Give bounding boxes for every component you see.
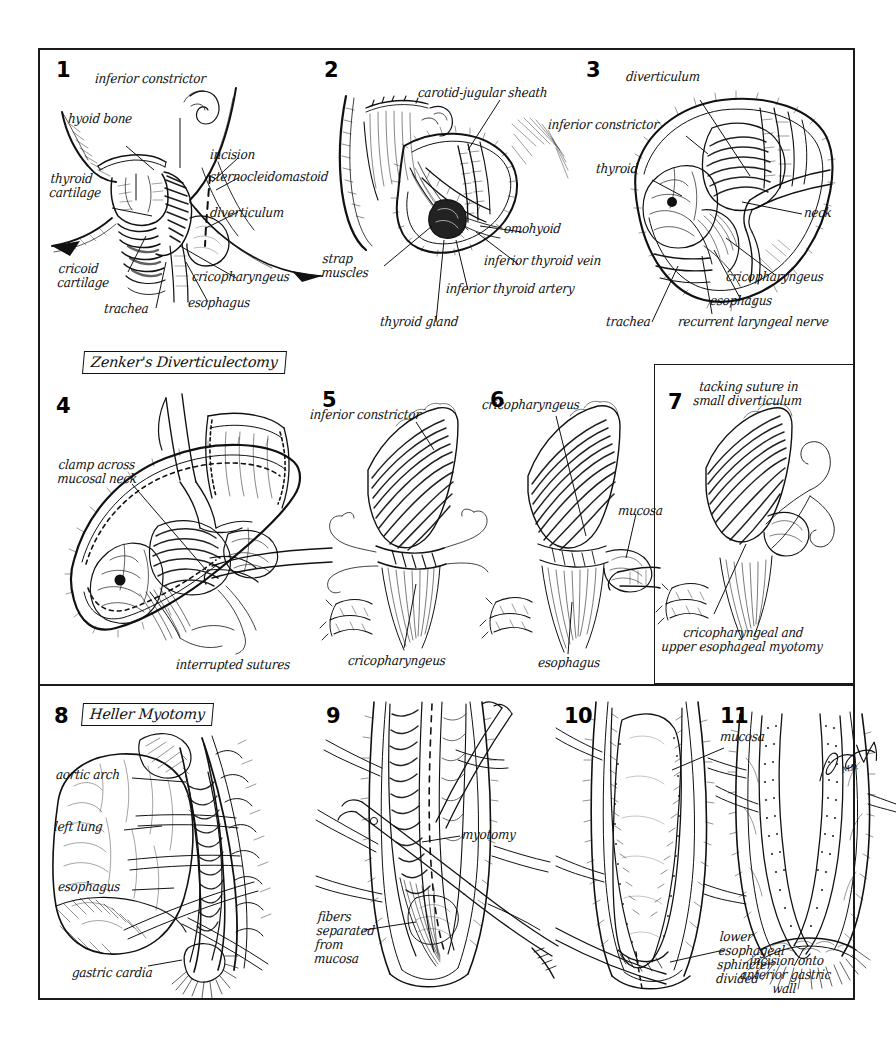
panel-1-label-cricoid-cartilage: cricoid cartilage <box>57 262 111 290</box>
panel-1-label-cricopharyngeus: cricopharyngeus <box>191 270 290 284</box>
panel-2-label-carotid-jugular-sheath: carotid-jugular sheath <box>417 86 548 100</box>
panel-8-label-gastric-cardia: gastric cardia <box>71 966 153 980</box>
panel-7-number: 7 <box>668 390 682 414</box>
panel-6: 6 <box>480 376 660 684</box>
panel-5-label-inferior-constrictor: inferior constrictor <box>309 408 421 422</box>
panel-8-number: 8 <box>54 704 68 728</box>
panel-7-label-tacking-suture: tacking suture in small diverticulum <box>693 380 804 408</box>
panel-4: 4 <box>40 380 340 684</box>
panel-1-label-inferior-constrictor: inferior constrictor <box>94 72 206 86</box>
panel-9-label-myotomy: myotomy <box>461 828 516 842</box>
panel-1-label-trachea: trachea <box>103 302 149 316</box>
panel-2-label-strap-muscles: strap muscles <box>321 252 371 280</box>
panel-1-label-incision: incision <box>209 148 255 162</box>
panel-2-label-omohyoid: omohyoid <box>503 222 561 236</box>
panel-3-label-neck: neck <box>803 206 832 220</box>
panel-4-label-clamp-across-mucosal-neck: clamp across mucosal neck <box>57 458 139 486</box>
row-divider <box>40 684 855 686</box>
panel-3: 3 <box>574 50 856 350</box>
panel-4-number: 4 <box>56 394 70 418</box>
panel-9-label-fibers-separated: fibers separated from mucosa <box>314 910 377 966</box>
panel-8: 8 <box>40 698 330 1002</box>
panel-3-number: 3 <box>586 58 600 82</box>
panel-3-label-thyroid: thyroid <box>595 162 638 176</box>
panel-2-label-inferior-thyroid-artery: inferior thyroid artery <box>445 282 575 296</box>
panel-3-label-inferior-constrictor: inferior constrictor <box>547 118 659 132</box>
zenker-title-box: Zenker's Diverticulectomy <box>82 351 287 374</box>
panel-11-label-incision-anterior-gastric-wall: incision onto anterior gastric wall <box>738 954 833 996</box>
panel-9-number: 9 <box>326 704 340 728</box>
panel-7: 7 <box>654 364 855 684</box>
panel-1-artwork <box>40 50 330 350</box>
panel-6-label-esophagus: esophagus <box>537 656 600 670</box>
panel-5-label-cricopharyngeus: cricopharyngeus <box>347 654 446 668</box>
panel-2: 2 <box>308 50 590 350</box>
panel-6-label-cricopharyngeus: cricopharyngeus <box>481 398 580 412</box>
panel-5-artwork <box>316 376 488 684</box>
panel-5: 5 <box>316 376 488 684</box>
panel-4-label-interrupted-sutures: interrupted sutures <box>175 658 290 672</box>
panel-3-label-diverticulum: diverticulum <box>625 70 700 84</box>
illustration-plate: 1 <box>38 48 855 1000</box>
panel-9: 9 <box>316 698 564 1002</box>
panel-2-number: 2 <box>324 58 338 82</box>
panel-1: 1 <box>40 50 330 350</box>
panel-8-label-esophagus: esophagus <box>57 880 120 894</box>
panel-11: 11 <box>716 698 896 1002</box>
panel-7-label-myotomy-caption: cricopharyngeal and upper esophageal myo… <box>661 626 825 654</box>
panel-3-label-recurrent-laryngeal-nerve: recurrent laryngeal nerve <box>677 315 829 329</box>
panel-8-label-aortic-arch: aortic arch <box>55 768 120 782</box>
panel-6-artwork <box>480 376 660 684</box>
panel-1-label-esophagus: esophagus <box>187 296 250 310</box>
panel-1-label-hyoid-bone: hyoid bone <box>67 112 132 126</box>
panel-10-number: 10 <box>564 704 592 728</box>
panel-8-label-left-lung: left lung <box>53 820 103 834</box>
panel-3-label-trachea: trachea <box>605 315 651 329</box>
panel-1-number: 1 <box>56 58 70 82</box>
panel-3-label-cricopharyngeus: cricopharyngeus <box>725 270 824 284</box>
panel-3-label-esophagus: esophagus <box>709 294 772 308</box>
panel-1-label-diverticulum: diverticulum <box>209 206 284 220</box>
panel-11-number: 11 <box>720 704 748 728</box>
panel-8-artwork <box>40 698 330 1002</box>
panel-4-artwork <box>40 380 340 684</box>
panel-2-label-thyroid-gland: thyroid gland <box>379 315 458 329</box>
panel-1-label-thyroid-cartilage: thyroid cartilage <box>49 172 103 200</box>
